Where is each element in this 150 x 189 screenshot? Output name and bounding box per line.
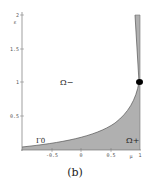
gamma0-label: Γ0 <box>36 137 45 145</box>
y-axis-label: ε <box>13 19 16 25</box>
y-tick-label: 0.5 <box>10 113 19 119</box>
y-tick-label: 1.5 <box>10 46 19 52</box>
x-tick-label: 0 <box>79 152 82 158</box>
x-axis-label: μ <box>129 153 132 160</box>
omega-plus-label: Ω+ <box>126 136 139 145</box>
y-tick-label: 1 <box>16 79 19 85</box>
x-tick-label: 1 <box>138 152 141 158</box>
y-tick-label: 2 <box>16 12 19 18</box>
omega-minus-label: Ω− <box>60 78 73 87</box>
x-tick-label: -0.5 <box>46 152 58 158</box>
figure-caption: (b) <box>0 166 150 179</box>
critical-point-marker <box>136 79 143 85</box>
x-tick-label: 0.5 <box>106 152 115 158</box>
phase-diagram: 2 1.5 1 0.5 ε -0.5 0 0.5 1 μ Ω− Ω+ Γ0 <box>0 0 150 189</box>
